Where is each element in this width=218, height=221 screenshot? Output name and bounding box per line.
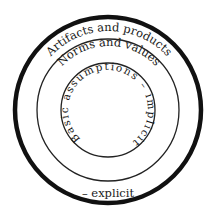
explicit-label: – explicit [82, 186, 135, 200]
culture-levels-diagram: Artifacts and products Norms and values … [0, 0, 218, 221]
inner-layer-label: Basic assumptions – implicit [58, 60, 158, 150]
